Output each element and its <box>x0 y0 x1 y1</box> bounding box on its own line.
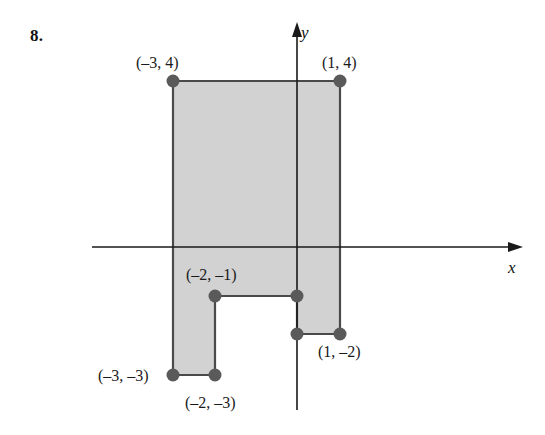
point-label-neg2-neg3: (–2, –3) <box>185 395 236 411</box>
figure-root: 8. (–3, 4) (1, 4) (–2, –1) (1, –2) <box>0 0 545 435</box>
point-label-1-4: (1, 4) <box>322 55 357 71</box>
x-axis-label: x <box>508 259 516 276</box>
point-label-1-neg2: (1, –2) <box>318 344 361 360</box>
y-axis-label: y <box>301 24 309 41</box>
coordinate-plane-plot <box>0 0 545 435</box>
vertex-dot <box>291 328 304 341</box>
vertex-dot <box>209 290 222 303</box>
vertex-dot <box>334 328 347 341</box>
vertex-dot <box>167 75 180 88</box>
shaded-region-polygon <box>173 81 340 375</box>
vertex-dot <box>291 290 304 303</box>
vertex-dot <box>334 75 347 88</box>
x-axis-arrowhead <box>508 242 523 252</box>
point-label-neg3-neg3: (–3, –3) <box>98 368 149 384</box>
vertex-dot <box>167 369 180 382</box>
vertex-dot <box>209 369 222 382</box>
point-label-neg3-4: (–3, 4) <box>136 55 179 71</box>
point-label-neg2-neg1: (–2, –1) <box>186 267 237 283</box>
